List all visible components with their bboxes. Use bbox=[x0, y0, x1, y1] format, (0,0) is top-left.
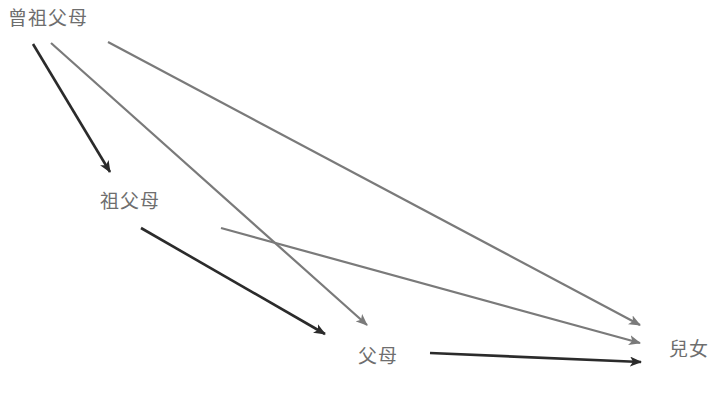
arrow-grandparents-to-parents bbox=[141, 228, 325, 334]
node-great-grandparents: 曾祖父母 bbox=[8, 9, 88, 28]
arrow-great-grandparents-to-grandparents bbox=[33, 44, 110, 172]
node-children: 兒女 bbox=[669, 340, 709, 359]
arrow-parents-to-children bbox=[430, 353, 641, 362]
node-grandparents: 祖父母 bbox=[100, 192, 160, 211]
arrow-great-grandparents-to-children bbox=[108, 42, 640, 325]
arrow-grandparents-to-children bbox=[221, 228, 640, 343]
arrow-great-grandparents-to-parents bbox=[51, 43, 367, 325]
node-parents: 父母 bbox=[358, 347, 398, 366]
